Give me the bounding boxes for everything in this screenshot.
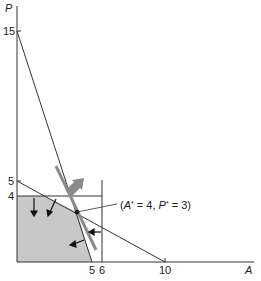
tick-label-p4: 4 [8,190,14,202]
linear-programming-chart: P A 15 5 4 5 6 10 (A* = 4, P* = 3) [0,0,261,281]
y-axis-label: P [5,2,13,14]
tick-label-a6: 6 [99,264,105,276]
x-axis-label: A [244,264,252,276]
tick-label-a5: 5 [89,264,95,276]
arrow-left-icon [89,229,101,235]
tick-label-p5: 5 [8,175,14,187]
feasible-region [17,196,92,262]
tick-label-p15: 15 [3,25,15,37]
tick-label-a10: 10 [159,264,171,276]
optimum-label: (A* = 4, P* = 3) [120,199,191,211]
optimum-leader-line [77,204,117,212]
